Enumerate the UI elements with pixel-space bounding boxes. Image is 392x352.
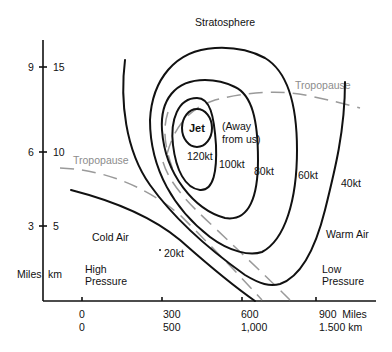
tropopause-label-lower: Tropopause [73, 154, 129, 166]
cold-air-label: Cold Air [92, 231, 129, 243]
y-tick-miles: 6 [28, 146, 34, 158]
jet-stream-cross-section-diagram: Stratosphere 9 15 6 10 3 5 Miles km 0 0 … [0, 0, 392, 352]
x-tick-miles: 0 [79, 308, 85, 320]
jet-note-line1: (Away [222, 120, 252, 132]
y-tick-km: 10 [53, 146, 65, 158]
x-tick-km: 1.500 km [319, 321, 362, 333]
x-tick-km: 500 [163, 321, 181, 333]
isotach-label-40kt: 40kt [341, 177, 361, 189]
y-unit-miles: Miles [17, 268, 42, 280]
y-tick-miles: 9 [28, 61, 34, 73]
y-unit-km: km [48, 268, 62, 280]
y-tick-miles: 3 [28, 220, 34, 232]
stratosphere-label: Stratosphere [195, 16, 255, 28]
warm-air-label: Warm Air [326, 228, 369, 240]
tropopause-label-upper: Tropopause [295, 79, 351, 91]
jet-note-line2: from us) [222, 133, 261, 145]
y-tick-km: 15 [53, 61, 65, 73]
isotach-label-100kt: 100kt [219, 158, 245, 170]
isotach-label-60kt: 60kt [298, 169, 318, 181]
low-pressure-label-line2: Pressure [322, 275, 364, 287]
low-pressure-label-line1: Low [322, 263, 342, 275]
high-pressure-label-line2: Pressure [85, 275, 127, 287]
x-axis-labels: 0 0 300 500 600 1,000 900 Miles 1.500 km [79, 308, 367, 333]
isotach-label-120kt: 120kt [187, 150, 213, 162]
isotach-label-80kt: 80kt [254, 165, 274, 177]
x-tick-km: 0 [79, 321, 85, 333]
y-axis-labels: 9 15 6 10 3 5 Miles km [17, 61, 65, 280]
high-pressure-label-line1: High [85, 263, 107, 275]
isotach-60kt [150, 48, 297, 254]
isotach-label-20kt: 20kt [164, 247, 184, 259]
x-tick-miles: 300 [163, 308, 181, 320]
jet-label: Jet [189, 122, 205, 134]
y-tick-km: 5 [53, 220, 59, 232]
x-tick-miles: 900 Miles [319, 308, 367, 320]
isotach-100kt [172, 98, 216, 190]
x-tick-miles: 600 [241, 308, 259, 320]
x-tick-km: 1,000 [241, 321, 267, 333]
